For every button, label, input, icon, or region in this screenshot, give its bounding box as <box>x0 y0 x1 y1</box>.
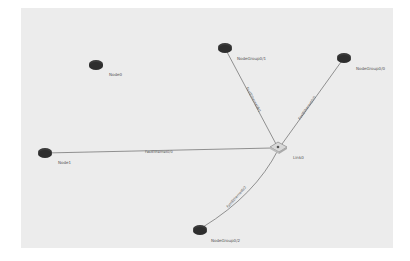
edge-label: FastEthernet0/0 <box>145 150 173 154</box>
nodes <box>38 43 351 235</box>
edge-labels: FastEthernet0/0 FastEthernet0/1 FastEthe… <box>145 87 317 209</box>
node-label: Node0 <box>109 72 122 77</box>
node-label: Link0 <box>293 155 304 160</box>
router-icon-node0[interactable] <box>89 60 103 70</box>
switch-icon-link0[interactable] <box>270 142 287 154</box>
router-icon-nodegroup0-1[interactable] <box>218 43 232 53</box>
node-label: NodeGroup0/1 <box>237 56 266 61</box>
edge-label: FastEthernet0/1 <box>245 87 262 113</box>
diagram-svg: FastEthernet0/0 FastEthernet0/1 FastEthe… <box>0 0 410 261</box>
edge-label: FastEthernet0/0 <box>298 96 317 121</box>
node-label: NodeGroup0/0 <box>356 66 385 71</box>
node-label: NodeGroup0/2 <box>211 238 240 243</box>
node-label: Node1 <box>58 160 71 165</box>
edge-label: FastEthernet0/2 <box>226 185 248 208</box>
router-icon-nodegroup0-2[interactable] <box>193 225 207 235</box>
edges <box>45 52 341 227</box>
router-icon-nodegroup0-0[interactable] <box>337 53 351 63</box>
router-icon-node1[interactable] <box>38 148 52 158</box>
